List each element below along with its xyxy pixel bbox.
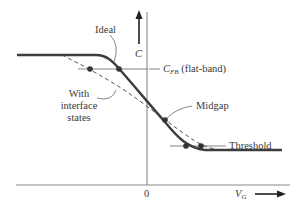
threshold-marker-ideal bbox=[183, 143, 189, 149]
cfb-main: C bbox=[163, 63, 170, 74]
with-line1: With bbox=[57, 88, 101, 100]
cv-diagram bbox=[0, 0, 303, 210]
midgap-leader-line bbox=[167, 106, 192, 118]
threshold-label: Threshold bbox=[229, 141, 272, 152]
cfb-label: CFB (flat-band) bbox=[163, 64, 226, 76]
with-interface-states-label: With interface states bbox=[57, 88, 101, 124]
vg-sub: G bbox=[241, 193, 246, 201]
midgap-label: Midgap bbox=[196, 101, 229, 112]
c-axis-arrow-icon bbox=[136, 10, 143, 44]
midgap-marker bbox=[162, 117, 168, 123]
ideal-label: Ideal bbox=[95, 25, 116, 36]
threshold-marker-interface bbox=[198, 143, 204, 149]
vg-axis-label: VG bbox=[235, 189, 246, 201]
with-line2: interface bbox=[57, 100, 101, 112]
with-line3: states bbox=[57, 112, 101, 124]
c-axis-label: C bbox=[135, 49, 142, 60]
cfb-suffix: (flat-band) bbox=[179, 63, 227, 74]
cfb-sub: FB bbox=[170, 68, 179, 76]
ideal-leader-line bbox=[110, 35, 116, 62]
vg-axis-arrow-icon bbox=[255, 191, 286, 198]
cfb-marker-interface bbox=[87, 66, 93, 72]
origin-label: 0 bbox=[144, 189, 149, 200]
cfb-marker-ideal bbox=[116, 66, 122, 72]
